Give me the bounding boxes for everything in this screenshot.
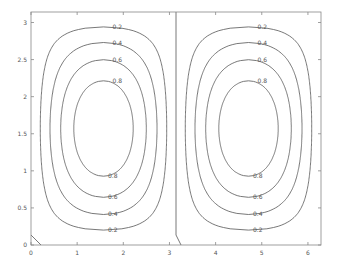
contour-label: 0.8 bbox=[113, 77, 123, 84]
contour-0.8-left-cell bbox=[74, 81, 133, 176]
contour-label: 0.4 bbox=[258, 39, 268, 46]
x-tick-label: 2 bbox=[121, 249, 125, 256]
contour-label: 0.4 bbox=[253, 210, 263, 217]
contour-label: 0.6 bbox=[108, 193, 118, 200]
y-tick-label: 2.5 bbox=[17, 56, 27, 63]
contour-0.4-right-cell bbox=[195, 43, 302, 215]
y-tick-label: 2 bbox=[23, 93, 27, 100]
contour-label: 0.2 bbox=[258, 23, 268, 30]
y-tick-label: 3 bbox=[23, 19, 27, 26]
contour-label: 0.2 bbox=[108, 226, 118, 233]
y-tick-label: 1 bbox=[23, 167, 27, 174]
contour-label: 0.2 bbox=[113, 23, 123, 30]
contour-0.2-right-cell bbox=[185, 27, 311, 230]
x-tick-label: 6 bbox=[306, 249, 310, 256]
x-tick-label: 1 bbox=[75, 249, 79, 256]
contour-label: 0.6 bbox=[113, 56, 123, 63]
contour-label: 0.6 bbox=[253, 193, 263, 200]
contour-zero bbox=[176, 12, 181, 245]
x-tick-label: 5 bbox=[260, 249, 264, 256]
contour-0.8-right-cell bbox=[219, 81, 278, 176]
x-tick-label: 4 bbox=[214, 249, 218, 256]
y-tick-label: 0 bbox=[23, 241, 27, 248]
x-tick-label: 0 bbox=[29, 249, 33, 256]
contour-0.4-left-cell bbox=[50, 43, 157, 215]
x-tick-label: 3 bbox=[168, 249, 172, 256]
contour-labels: 0.20.20.20.20.40.40.40.40.60.60.60.60.80… bbox=[108, 23, 267, 233]
contour-0.2-left-cell bbox=[40, 27, 166, 230]
y-axis: 00.511.522.53 bbox=[17, 19, 321, 248]
contour-label: 0.6 bbox=[258, 56, 268, 63]
y-tick-label: 1.5 bbox=[17, 130, 27, 137]
contour-zero-corner bbox=[31, 235, 41, 245]
contour-label: 0.2 bbox=[253, 226, 263, 233]
x-axis: 0123456 bbox=[29, 12, 310, 256]
contour-label: 0.8 bbox=[253, 172, 263, 179]
contour-label: 0.8 bbox=[108, 172, 118, 179]
contour-label: 0.8 bbox=[258, 77, 268, 84]
contour-label: 0.4 bbox=[113, 39, 123, 46]
contour-label: 0.4 bbox=[108, 210, 118, 217]
contour-lines bbox=[31, 12, 312, 245]
contour-plot: 0.20.20.20.20.40.40.40.40.60.60.60.60.80… bbox=[0, 0, 338, 266]
y-tick-label: 0.5 bbox=[17, 204, 27, 211]
